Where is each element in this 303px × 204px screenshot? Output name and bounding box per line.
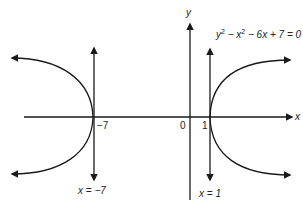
asymptote-left-label: x = −7	[78, 186, 106, 196]
equation-label: y2 − x2 − 6x + 7 = 0	[216, 28, 301, 40]
origin-label: 0	[180, 121, 186, 131]
y-axis-label: y	[186, 8, 191, 18]
hyperbola-left-branch	[12, 58, 93, 174]
tick-label-1: 1	[202, 121, 208, 131]
eq-rest: − 6x + 7 = 0	[245, 29, 301, 40]
eq-mid: − x	[225, 29, 241, 40]
tick-label-neg7: −7	[97, 121, 108, 131]
x-axis-label: x	[295, 112, 300, 122]
asymptote-right-label: x = 1	[199, 189, 221, 199]
